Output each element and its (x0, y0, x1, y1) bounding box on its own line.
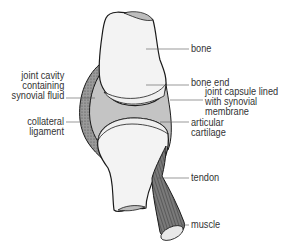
label-tendon: tendon (191, 173, 219, 183)
label-joint-capsule: joint capsule lined with synovial membra… (205, 87, 278, 117)
label-collateral-ligament: collateral ligament (27, 117, 64, 137)
label-muscle: muscle (191, 220, 220, 230)
label-bone: bone (191, 44, 211, 54)
label-articular-cartilage: articular cartilage (191, 118, 226, 138)
label-joint-cavity: joint cavity containing synovial fluid (11, 71, 64, 101)
upper-bone-shape (99, 12, 166, 105)
